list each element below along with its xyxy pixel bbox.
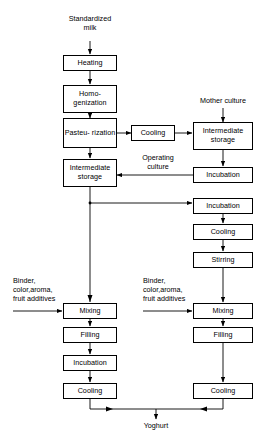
node-incubation-culture[interactable]: Incubation (193, 167, 253, 183)
node-heating-label: Heating (77, 59, 102, 68)
yoghurt-process-flowchart: Standardized milk Mother culture Operati… (0, 0, 261, 441)
node-intermediate-storage-right[interactable]: Intermediate storage (193, 122, 253, 150)
arrowhead-merge-left (106, 407, 113, 412)
node-intermediate-storage-left-label: Intermediate storage (64, 164, 116, 181)
node-mixing-right-label: Mixing (212, 307, 233, 316)
edge-cooling-set-to-merge (90, 399, 156, 409)
input-label-binder-left: Binder, color,aroma, fruit additives (13, 276, 73, 304)
node-cooling-set-label: Cooling (78, 387, 103, 396)
node-mixing-left-label: Mixing (79, 307, 100, 316)
node-filling-right[interactable]: Filling (193, 327, 253, 343)
node-homogenization-label: Homo- genization (64, 90, 116, 107)
edge-label-operating-culture: Operating culture (126, 153, 190, 171)
input-label-binder-right: Binder, color,aroma, fruit additives (143, 276, 203, 304)
node-mixing-right[interactable]: Mixing (193, 303, 253, 319)
output-label-yoghurt: Yoghurt (126, 421, 186, 430)
node-cooling-right-final-label: Cooling (211, 387, 236, 396)
node-filling-right-label: Filling (213, 331, 232, 340)
node-filling-left[interactable]: Filling (63, 327, 117, 343)
node-pasteurization-label: Pasteu- rization (65, 129, 116, 138)
arrowhead-trunk-to-mixing-left (88, 295, 93, 302)
node-heating[interactable]: Heating (63, 55, 117, 71)
input-label-standardized-milk: Standardized milk (52, 14, 128, 32)
node-stirring-label: Stirring (211, 256, 234, 265)
junction-dot-trunk (89, 202, 92, 205)
node-incubation-set-label: Incubation (73, 359, 107, 368)
flow-connector-layer (0, 0, 261, 441)
node-incubation-culture-label: Incubation (206, 171, 240, 180)
node-stirring[interactable]: Stirring (193, 252, 253, 268)
node-mixing-left[interactable]: Mixing (63, 303, 117, 319)
node-cooling-top-label: Cooling (141, 129, 166, 138)
node-cooling-right-final[interactable]: Cooling (193, 383, 253, 399)
node-incubation-stirred-label: Incubation (206, 202, 240, 211)
edge-cooling-right-to-merge (156, 399, 223, 409)
node-incubation-stirred[interactable]: Incubation (193, 198, 253, 214)
node-cooling-stirred-label: Cooling (211, 228, 236, 237)
input-label-mother-culture: Mother culture (180, 96, 261, 105)
node-cooling-top[interactable]: Cooling (131, 125, 175, 141)
node-intermediate-storage-right-label: Intermediate storage (194, 127, 252, 144)
node-filling-left-label: Filling (80, 331, 99, 340)
node-incubation-set[interactable]: Incubation (63, 355, 117, 371)
node-homogenization[interactable]: Homo- genization (63, 85, 117, 113)
node-cooling-set[interactable]: Cooling (63, 383, 117, 399)
arrowhead-merge-right (200, 407, 207, 412)
node-intermediate-storage-left[interactable]: Intermediate storage (63, 159, 117, 187)
node-cooling-stirred[interactable]: Cooling (193, 224, 253, 240)
node-pasteurization[interactable]: Pasteu- rization (63, 118, 117, 148)
